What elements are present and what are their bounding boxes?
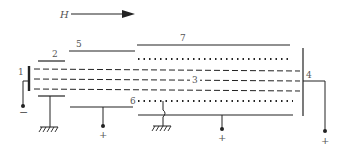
label-6: 6 xyxy=(130,96,136,106)
cathode-1: 1 − xyxy=(18,66,29,119)
grounded-electrode xyxy=(38,96,65,132)
field-label: H xyxy=(59,9,69,20)
diagram: H 2 5 7 1 − 3 6 + xyxy=(0,0,343,151)
bottom-plate: + xyxy=(138,101,293,143)
electrode-6-terminal: + xyxy=(99,129,107,140)
beam-line-middle xyxy=(34,79,300,81)
label-7: 7 xyxy=(180,33,186,43)
beam-line-top xyxy=(34,69,300,71)
bottom-plate-terminal: + xyxy=(218,132,226,143)
beam-line-bottom xyxy=(34,89,300,91)
label-2: 2 xyxy=(52,49,58,59)
magnetic-field-arrow: H xyxy=(59,9,135,20)
label-3: 3 xyxy=(192,75,198,85)
collector-terminal: + xyxy=(321,135,329,146)
label-4: 4 xyxy=(306,70,312,80)
collector-4: 4 + xyxy=(303,48,329,146)
electrode-6: + xyxy=(70,107,133,140)
cathode-terminal: − xyxy=(19,106,28,119)
label-5: 5 xyxy=(76,39,82,49)
label-1: 1 xyxy=(18,67,24,77)
